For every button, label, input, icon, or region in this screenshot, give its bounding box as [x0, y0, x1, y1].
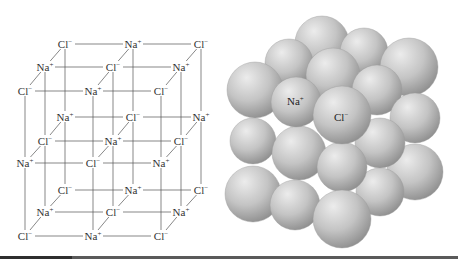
ion-spheres: [225, 16, 443, 248]
ion-sphere: [230, 118, 276, 164]
nacl-figure: Cl−Na+Cl−Na+Cl−Na+Cl−Na+Cl−Na+Cl−Na+Cl−N…: [0, 0, 458, 259]
lattice-ion-labels: Cl−Na+Cl−Na+Cl−Na+Cl−Na+Cl−Na+Cl−Na+Cl−N…: [15, 38, 211, 242]
ion-sphere: [317, 142, 367, 192]
space-filling-model: Na+Cl−: [225, 16, 443, 248]
ion-sphere: [270, 180, 320, 230]
ion-sphere: [313, 190, 371, 248]
lattice-diagram: Cl−Na+Cl−Na+Cl−Na+Cl−Na+Cl−Na+Cl−Na+Cl−N…: [15, 38, 211, 242]
